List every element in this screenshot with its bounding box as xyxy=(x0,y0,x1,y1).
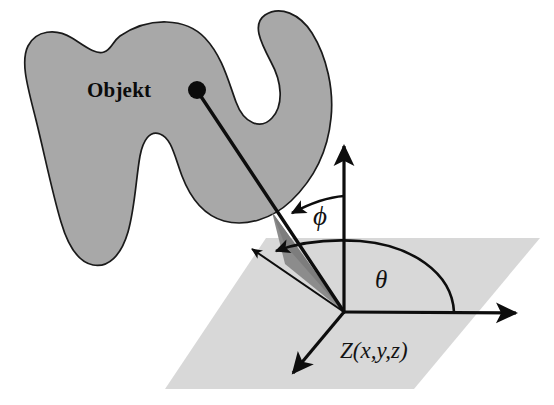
spherical-coordinate-figure: Objekt Z(x,y,z) xyxy=(0,0,554,405)
object-point-dot xyxy=(188,81,206,99)
diagram-canvas: Objekt Z(x,y,z) xyxy=(0,0,554,405)
x-axis-arrow xyxy=(344,312,516,313)
theta-symbol: θ xyxy=(375,266,387,293)
phi-symbol: ϕ xyxy=(313,201,327,231)
object-shape-group: Objekt xyxy=(25,11,332,266)
object-label: Objekt xyxy=(87,78,151,102)
object-blob xyxy=(25,11,332,266)
origin-label: Z(x,y,z) xyxy=(340,338,408,363)
